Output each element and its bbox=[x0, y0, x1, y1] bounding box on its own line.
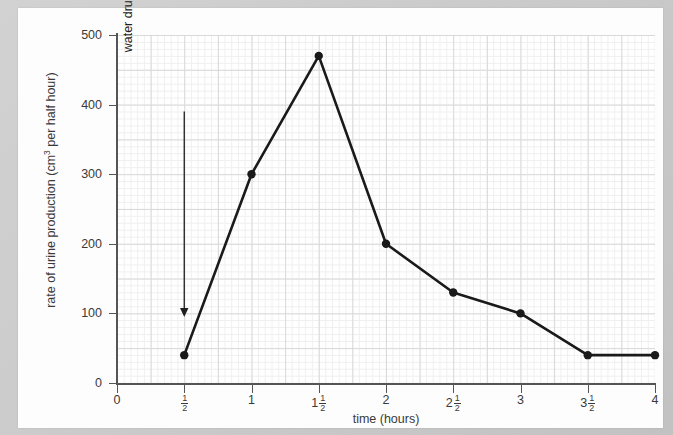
page-background: 0100200300400500 0121112221233124 rate o… bbox=[0, 0, 673, 435]
data-point-marker bbox=[382, 240, 390, 248]
data-point-marker bbox=[584, 351, 592, 359]
data-point-marker bbox=[180, 351, 188, 359]
chart-paper: 0100200300400500 0121112221233124 rate o… bbox=[18, 8, 663, 428]
annotation-arrow-head bbox=[180, 308, 188, 317]
data-line bbox=[184, 56, 655, 355]
series-overlay bbox=[18, 8, 663, 428]
data-point-marker bbox=[247, 170, 255, 178]
data-point-marker bbox=[651, 351, 659, 359]
data-point-marker bbox=[315, 52, 323, 60]
data-point-marker bbox=[449, 288, 457, 296]
data-point-marker bbox=[516, 309, 524, 317]
